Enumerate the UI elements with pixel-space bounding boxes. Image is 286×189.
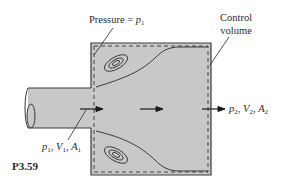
inlet-label: p1, V1, A1 [42, 142, 81, 154]
pressure-label: Pressure = p1 [89, 15, 145, 27]
inlet-pipe [25, 88, 92, 128]
control-volume-leader-line [210, 37, 229, 65]
outlet-label: p2, V2, A2 [229, 104, 268, 116]
figure-id-label: P3.59 [12, 160, 38, 172]
control-volume-label: Control volume [220, 11, 252, 37]
